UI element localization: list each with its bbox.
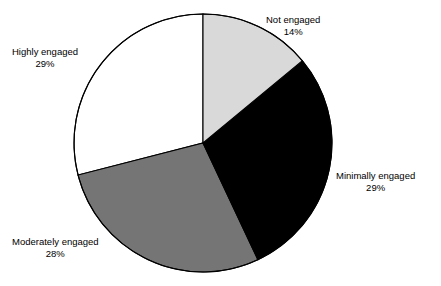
pie-label-moderately-engaged: Moderately engaged 28% xyxy=(12,236,99,259)
pie-label-highly-engaged-value: 29% xyxy=(12,58,78,70)
pie-label-not-engaged: Not engaged 14% xyxy=(266,14,320,37)
pie-label-minimally-engaged: Minimally engaged 29% xyxy=(336,170,415,193)
pie-label-moderately-engaged-name: Moderately engaged xyxy=(12,236,99,248)
pie-label-not-engaged-name: Not engaged xyxy=(266,14,320,26)
pie-label-minimally-engaged-name: Minimally engaged xyxy=(336,170,415,182)
pie-label-minimally-engaged-value: 29% xyxy=(336,182,415,194)
pie-label-not-engaged-value: 14% xyxy=(266,26,320,38)
pie-label-moderately-engaged-value: 28% xyxy=(12,248,99,260)
pie-label-highly-engaged: Highly engaged 29% xyxy=(12,46,78,69)
pie-chart-figure: Not engaged 14% Minimally engaged 29% Mo… xyxy=(0,0,441,286)
pie-label-highly-engaged-name: Highly engaged xyxy=(12,46,78,58)
